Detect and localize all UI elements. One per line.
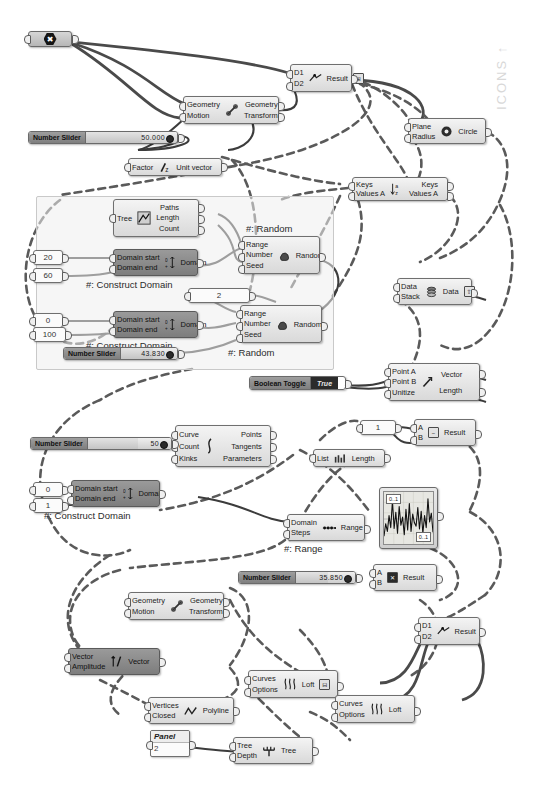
node-vector-two-point[interactable]: Point A Point B Unitize Vector Length xyxy=(388,363,480,401)
port-in[interactable] xyxy=(124,598,131,607)
port-out[interactable] xyxy=(172,440,179,449)
port-out[interactable] xyxy=(72,35,79,44)
port-out[interactable] xyxy=(223,598,230,607)
port-in[interactable] xyxy=(236,310,243,319)
port-in[interactable] xyxy=(404,123,411,132)
port-in[interactable] xyxy=(171,455,178,464)
port-in[interactable] xyxy=(283,519,290,528)
node-distance-bottom[interactable]: D1 D2 Result xyxy=(418,617,480,645)
origin-point-param[interactable]: ✖ xyxy=(28,31,72,47)
port-in[interactable] xyxy=(64,664,71,673)
port-in[interactable] xyxy=(331,701,338,710)
node-construct-domain-2[interactable]: Domain start Domain end 0+ Domain xyxy=(113,311,198,338)
node-move-bottom[interactable]: Geometry Motion Geometry Transform xyxy=(128,592,224,620)
node-subtraction[interactable]: A B − Result xyxy=(414,419,476,446)
param-number-0b[interactable]: 0 xyxy=(33,482,63,497)
node-distance-top[interactable]: D1 D2 Result ⊞ xyxy=(290,64,352,92)
port-in[interactable] xyxy=(124,163,131,172)
port-in[interactable] xyxy=(283,530,290,539)
param-number-2[interactable]: 2 xyxy=(188,288,250,303)
panel-value[interactable]: 2 xyxy=(151,743,189,754)
node-move-top[interactable]: Geometry Motion Geometry Transform xyxy=(183,96,279,124)
port-out[interactable] xyxy=(479,628,486,637)
port-in[interactable] xyxy=(171,431,178,440)
node-sort-list[interactable]: Keys Values A az Keys Values A xyxy=(352,177,448,201)
port-out[interactable] xyxy=(198,215,205,224)
port-in[interactable] xyxy=(414,623,421,632)
port-out[interactable] xyxy=(178,350,185,359)
port-in[interactable] xyxy=(29,254,36,263)
port-out[interactable] xyxy=(414,707,421,716)
port-in[interactable] xyxy=(67,496,74,505)
port-in[interactable] xyxy=(109,265,116,274)
node-construct-domain-1[interactable]: Domain start Domain end 0+ Domain xyxy=(113,249,198,276)
port-in[interactable] xyxy=(356,424,363,433)
port-out[interactable] xyxy=(270,431,277,440)
slider-random[interactable]: Number Slider 43.830 xyxy=(63,347,178,360)
port-out[interactable] xyxy=(270,443,277,452)
node-loft-2[interactable]: Curves Options Loft xyxy=(335,695,415,723)
port-out[interactable] xyxy=(198,226,205,235)
port-out[interactable] xyxy=(475,430,482,439)
param-number-0a[interactable]: 0 xyxy=(33,313,63,328)
port-out[interactable] xyxy=(278,102,285,111)
port-out[interactable] xyxy=(364,525,371,534)
port-in[interactable] xyxy=(29,317,36,326)
port-out[interactable] xyxy=(479,388,486,397)
node-unit-vector[interactable]: Factor z Unit vector xyxy=(128,158,222,176)
port-out[interactable] xyxy=(447,182,454,191)
port-out[interactable] xyxy=(356,574,363,583)
port-in[interactable] xyxy=(109,214,116,223)
port-out[interactable] xyxy=(479,370,486,379)
port-in[interactable] xyxy=(384,390,391,399)
port-in[interactable] xyxy=(236,334,243,343)
port-in[interactable] xyxy=(348,192,355,201)
flatten-badge-icon[interactable]: ⊟ xyxy=(319,679,330,690)
port-in[interactable] xyxy=(286,82,293,91)
port-in[interactable] xyxy=(109,316,116,325)
port-in[interactable] xyxy=(244,676,251,685)
port-in[interactable] xyxy=(414,635,421,644)
param-number-100[interactable]: 100 xyxy=(33,327,66,342)
port-in[interactable] xyxy=(179,113,186,122)
port-in[interactable] xyxy=(124,609,131,618)
port-out[interactable] xyxy=(197,259,204,268)
port-in[interactable] xyxy=(238,241,245,250)
port-in[interactable] xyxy=(348,182,355,191)
param-number-20[interactable]: 20 xyxy=(33,250,63,265)
node-circle[interactable]: Plane Radius Circle xyxy=(408,118,486,144)
port-out[interactable] xyxy=(233,707,240,716)
node-list-length[interactable]: List Length xyxy=(313,449,385,467)
port-in[interactable] xyxy=(29,486,36,495)
port-in[interactable] xyxy=(393,294,400,303)
port-out[interactable] xyxy=(471,289,478,298)
port-out[interactable] xyxy=(189,741,196,750)
port-out[interactable] xyxy=(223,609,230,618)
node-tree-statistics[interactable]: Tree Paths Length Count xyxy=(113,199,199,237)
port-out[interactable] xyxy=(278,113,285,122)
node-construct-domain-3[interactable]: Domain start Domain end 0+ Domain xyxy=(71,480,160,507)
slider-mult[interactable]: Number Slider 35.850 xyxy=(238,571,356,584)
slider-top[interactable]: Number Slider 50.000 xyxy=(28,131,178,144)
port-in[interactable] xyxy=(24,35,31,44)
port-out[interactable] xyxy=(62,254,69,263)
grasshopper-canvas[interactable]: .w { fill:none; stroke:#3c3c3c; stroke-w… xyxy=(0,0,536,796)
param-number-1a[interactable]: 1 xyxy=(360,420,396,435)
port-in[interactable] xyxy=(236,322,243,331)
port-out[interactable] xyxy=(485,128,492,137)
port-in[interactable] xyxy=(369,569,376,578)
graph-plot[interactable]: 0..1 0..1 xyxy=(383,491,434,545)
port-out[interactable] xyxy=(270,455,277,464)
port-in[interactable] xyxy=(144,713,151,722)
port-out[interactable] xyxy=(384,454,391,463)
port-in[interactable] xyxy=(331,713,338,722)
port-out[interactable] xyxy=(65,331,72,340)
port-out[interactable] xyxy=(345,380,352,389)
port-out[interactable] xyxy=(437,512,444,521)
boolean-toggle[interactable]: Boolean Toggle True xyxy=(249,376,346,390)
port-out[interactable] xyxy=(395,424,402,433)
port-out[interactable] xyxy=(319,253,326,262)
port-in[interactable] xyxy=(179,102,186,111)
quick-graph[interactable]: 0..1 0..1 xyxy=(379,487,438,549)
node-random-2[interactable]: Range Number Seed Random xyxy=(240,305,322,343)
